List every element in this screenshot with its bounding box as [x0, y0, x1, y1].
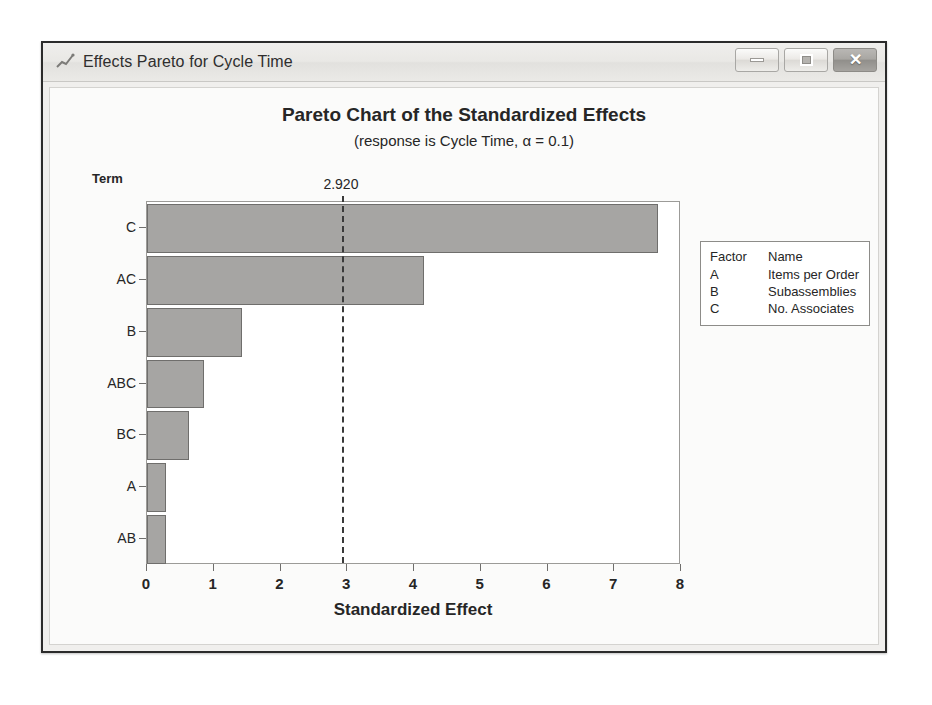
x-tick-3: [346, 564, 347, 571]
chart-window: Effects Pareto for Cycle Time ✕ Pareto C…: [41, 41, 887, 653]
x-label-1: 1: [209, 575, 217, 592]
bars-layer: [147, 202, 679, 563]
y-label-abc: ABC: [92, 375, 136, 391]
window-titlebar[interactable]: Effects Pareto for Cycle Time ✕: [43, 43, 885, 82]
legend-name: No. Associates: [768, 300, 859, 317]
legend-row: AItems per Order: [710, 266, 859, 283]
bar-abc: [147, 360, 204, 409]
x-tick-8: [680, 564, 681, 571]
x-tick-1: [213, 564, 214, 571]
bar-a: [147, 463, 166, 512]
chart-title: Pareto Chart of the Standardized Effects: [50, 104, 878, 126]
chart-client-area: Pareto Chart of the Standardized Effects…: [49, 87, 879, 645]
x-tick-2: [280, 564, 281, 571]
legend-row: BSubassemblies: [710, 283, 859, 300]
y-tick-abc: [139, 383, 146, 384]
maximize-button[interactable]: [784, 48, 828, 72]
bar-ac: [147, 256, 424, 305]
close-button[interactable]: ✕: [833, 48, 877, 72]
bar-b: [147, 308, 242, 357]
minimize-icon: [750, 58, 764, 62]
legend-header-row: Factor Name: [710, 249, 859, 266]
y-label-b: B: [92, 323, 136, 339]
x-tick-7: [613, 564, 614, 571]
bar-c: [147, 204, 658, 253]
close-icon: ✕: [849, 52, 862, 68]
y-tick-ac: [139, 279, 146, 280]
window-title: Effects Pareto for Cycle Time: [83, 53, 293, 71]
x-tick-0: [146, 564, 147, 571]
x-label-4: 4: [409, 575, 417, 592]
x-tick-6: [547, 564, 548, 571]
x-label-3: 3: [342, 575, 350, 592]
y-label-a: A: [92, 478, 136, 494]
y-tick-b: [139, 331, 146, 332]
y-tick-a: [139, 486, 146, 487]
x-label-0: 0: [142, 575, 150, 592]
pareto-chart: Pareto Chart of the Standardized Effects…: [50, 88, 878, 644]
x-tick-5: [480, 564, 481, 571]
maximize-icon: [800, 54, 813, 66]
bar-ab: [147, 515, 166, 564]
legend-row: CNo. Associates: [710, 300, 859, 317]
x-label-5: 5: [476, 575, 484, 592]
y-label-bc: BC: [92, 426, 136, 442]
legend-table: Factor Name AItems per OrderBSubassembli…: [710, 249, 859, 317]
y-tick-bc: [139, 434, 146, 435]
legend-factor: A: [710, 266, 768, 283]
legend-name: Subassemblies: [768, 283, 859, 300]
x-tick-4: [413, 564, 414, 571]
window-controls: ✕: [735, 48, 877, 72]
x-label-7: 7: [609, 575, 617, 592]
y-tick-c: [139, 227, 146, 228]
y-axis-labels: CACBABCBCAAB: [50, 88, 136, 644]
factor-legend: Factor Name AItems per OrderBSubassembli…: [700, 241, 870, 326]
chart-subtitle: (response is Cycle Time, α = 0.1): [50, 132, 878, 149]
legend-name: Items per Order: [768, 266, 859, 283]
line-chart-icon: [55, 52, 75, 72]
legend-factor: B: [710, 283, 768, 300]
bar-bc: [147, 411, 189, 460]
y-tick-ab: [139, 538, 146, 539]
reference-line-label: 2.920: [323, 176, 358, 192]
legend-factor: C: [710, 300, 768, 317]
y-label-ac: AC: [92, 271, 136, 287]
x-label-6: 6: [542, 575, 550, 592]
legend-header-name: Name: [768, 249, 859, 266]
y-label-ab: AB: [92, 530, 136, 546]
reference-line: [342, 196, 344, 563]
y-label-c: C: [92, 219, 136, 235]
x-axis-title: Standardized Effect: [146, 600, 680, 620]
minimize-button[interactable]: [735, 48, 779, 72]
x-label-8: 8: [676, 575, 684, 592]
plot-area: [146, 201, 680, 564]
legend-header-factor: Factor: [710, 249, 768, 266]
x-label-2: 2: [275, 575, 283, 592]
